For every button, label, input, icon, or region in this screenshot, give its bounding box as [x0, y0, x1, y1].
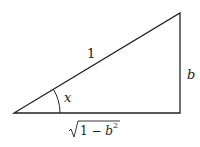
- angle-arc: [53, 89, 60, 113]
- radicand: 1 − b: [80, 124, 113, 138]
- hypotenuse-label: 1: [87, 46, 95, 61]
- adjacent-side-label: 1 − b 2: [69, 121, 120, 138]
- angle-label: x: [64, 90, 72, 105]
- opposite-side-label: b: [187, 67, 195, 82]
- right-triangle: [14, 13, 180, 113]
- triangle-diagram: 1 b x 1 − b 2: [0, 0, 200, 147]
- exponent: 2: [113, 121, 118, 130]
